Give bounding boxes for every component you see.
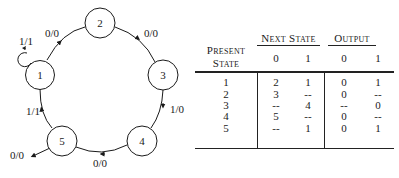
output-underline: [328, 45, 376, 46]
edge-5-out: [33, 148, 50, 156]
col-header-next-0: 0: [270, 53, 282, 64]
edge-label-5-1: 1/1: [22, 106, 44, 117]
cell-out-1: --: [370, 111, 386, 122]
cell-next-0: --: [268, 123, 284, 134]
edge-3-4: [151, 90, 163, 128]
edge-label-3-4: 1/0: [166, 104, 188, 115]
cell-state: 1: [220, 77, 232, 88]
next-state-header: Next State: [257, 33, 320, 44]
col-header-next-1: 1: [302, 53, 314, 64]
vertical-rule-2: [324, 72, 325, 148]
state-label-2: 2: [94, 18, 106, 29]
bottom-rule: [195, 148, 394, 149]
col-header-out-1: 1: [372, 53, 384, 64]
present-header-line2: State: [200, 57, 252, 70]
output-header: Output: [328, 33, 376, 44]
header-rule: [195, 71, 394, 73]
cell-state: 4: [220, 111, 232, 122]
cell-next-1: 1: [300, 77, 316, 88]
vertical-rule-1: [257, 72, 258, 148]
edge-1-1: [18, 53, 31, 67]
edge-label-5-out: 0/0: [6, 150, 28, 161]
cell-state: 5: [220, 123, 232, 134]
edge-label-2-3: 0/0: [140, 28, 162, 39]
cell-next-0: 2: [268, 77, 284, 88]
cell-out-1: 1: [370, 77, 386, 88]
present-state-header: Present State: [200, 44, 252, 70]
next-state-underline: [257, 45, 320, 46]
cell-out-0: 0: [336, 77, 352, 88]
cell-next-0: 5: [268, 111, 284, 122]
state-label-1: 1: [34, 70, 46, 81]
edge-4-5: [76, 145, 127, 152]
cell-out-0: 0: [336, 111, 352, 122]
edge-label-1-2: 0/0: [41, 28, 63, 39]
present-header-line1: Present: [200, 44, 252, 57]
cell-next-1: --: [300, 111, 316, 122]
edge-label-4-5: 0/0: [89, 158, 111, 169]
cell-out-1: 1: [370, 123, 386, 134]
state-label-3: 3: [157, 70, 169, 81]
state-label-5: 5: [56, 136, 68, 147]
cell-out-0: 0: [336, 123, 352, 134]
col-header-out-0: 0: [338, 53, 350, 64]
state-label-4: 4: [136, 136, 148, 147]
edge-label-1-1: 1/1: [15, 36, 37, 47]
cell-next-1: 1: [300, 123, 316, 134]
